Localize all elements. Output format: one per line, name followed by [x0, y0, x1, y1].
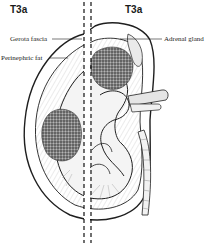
- lower-tumor: [42, 109, 82, 161]
- renal-artery: [130, 104, 161, 112]
- upper-tumor: [91, 47, 133, 89]
- kidney-illustration: [0, 0, 211, 243]
- divider-gap: [84, 0, 90, 243]
